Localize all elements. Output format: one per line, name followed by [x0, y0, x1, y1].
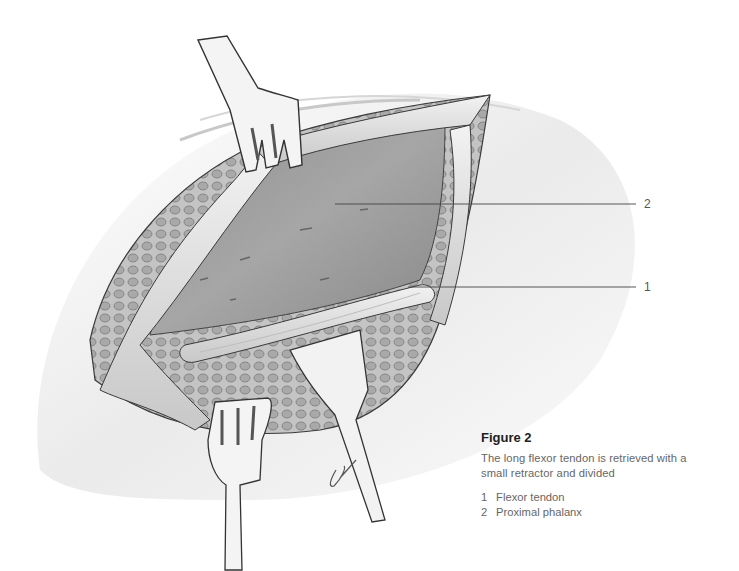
legend-label: Proximal phalanx: [496, 506, 582, 518]
legend-item: 1 Flexor tendon: [481, 490, 731, 505]
legend-number: 1: [481, 490, 493, 505]
caption-line-2: small retractor and divided: [481, 466, 731, 481]
legend-label: Flexor tendon: [496, 491, 564, 503]
figure-description: The long flexor tendon is retrieved with…: [481, 451, 731, 481]
callout-label-1: 1: [644, 280, 651, 294]
callout-label-2: 2: [644, 197, 651, 211]
figure-caption: Figure 2 The long flexor tendon is retri…: [481, 430, 731, 520]
legend-item: 2 Proximal phalanx: [481, 505, 731, 520]
legend-number: 2: [481, 505, 493, 520]
figure-title: Figure 2: [481, 430, 731, 445]
caption-line-1: The long flexor tendon is retrieved with…: [481, 451, 731, 466]
